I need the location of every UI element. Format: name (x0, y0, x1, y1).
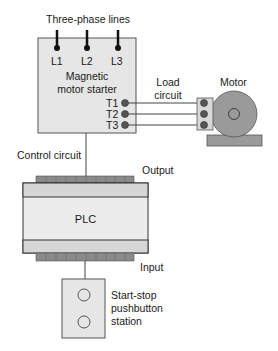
t3-label: T3 (106, 119, 118, 131)
station-label-line3: station (111, 315, 142, 327)
motor-terminal-dots (201, 100, 208, 129)
start-button-icon (78, 289, 90, 301)
motor-housing (211, 91, 257, 137)
control-circuit-label: Control circuit (17, 149, 81, 161)
load-circuit-wires (125, 103, 203, 125)
l2-label: L2 (81, 55, 93, 67)
starter-title-line2: motor starter (48, 83, 126, 95)
starter-title-line1: Magnetic (48, 70, 126, 82)
station-label-line2: pushbutton (111, 302, 163, 314)
pushbutton-station-box (62, 279, 105, 338)
stop-button-icon (78, 316, 90, 328)
load-circuit-label-line2: circuit (148, 89, 188, 101)
load-circuit-label-line1: Load (148, 76, 188, 88)
three-phase-lines-label: Three-phase lines (46, 13, 130, 25)
l1-label: L1 (51, 55, 63, 67)
plc-label: PLC (23, 213, 148, 225)
station-label-line1: Start-stop (111, 289, 157, 301)
l3-label: L3 (111, 55, 123, 67)
motor-label: Motor (220, 76, 247, 88)
input-label: Input (140, 261, 163, 273)
plc-input-connector (36, 253, 134, 261)
plc-output-connector (36, 176, 134, 183)
starter-terminal-dots (122, 100, 129, 129)
output-label: Output (142, 164, 174, 176)
